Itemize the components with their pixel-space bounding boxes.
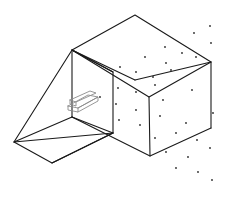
technical-drawing-canvas xyxy=(0,0,225,200)
stipple-dot xyxy=(209,147,211,149)
stipple-dot xyxy=(185,122,187,124)
stipple-dot xyxy=(193,32,195,34)
stipple-dot xyxy=(135,91,137,93)
stipple-dot xyxy=(115,103,117,105)
stipple-dot xyxy=(191,89,193,91)
stipple-dot xyxy=(118,119,120,121)
stipple-dot xyxy=(175,167,177,169)
stipple-dot xyxy=(210,42,212,44)
stipple-dot xyxy=(117,87,119,89)
stipple-dot xyxy=(162,99,164,101)
stipple-dot xyxy=(135,109,137,111)
stipple-dot xyxy=(211,179,213,181)
stipple-dot xyxy=(159,115,161,117)
stipple-dot xyxy=(165,151,167,153)
stipple-dot xyxy=(196,139,198,141)
stipple-dot xyxy=(154,84,156,86)
stipple-dot xyxy=(99,96,101,98)
stipple-dot xyxy=(154,137,156,139)
stipple-dot xyxy=(164,46,166,48)
stipple-dot xyxy=(175,132,177,134)
stipple-dot xyxy=(135,71,137,73)
stipple-dot xyxy=(119,66,121,68)
stipple-dot xyxy=(212,112,214,114)
stipple-dot xyxy=(170,69,172,71)
stipple-dot xyxy=(187,156,189,158)
figure-root: Figure xyxy=(0,0,225,200)
stipple-dot xyxy=(195,56,197,58)
stipple-dot xyxy=(144,56,146,58)
stipple-dot xyxy=(209,25,211,27)
stipple-dot xyxy=(181,52,183,54)
stipple-dot xyxy=(139,124,141,126)
stipple-dot xyxy=(165,62,167,64)
stipple-dot xyxy=(197,171,199,173)
